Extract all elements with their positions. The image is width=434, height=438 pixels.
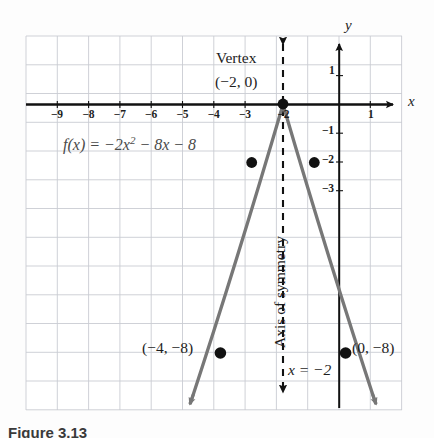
x-tick-label-1: 1 [368, 108, 374, 120]
figure-container: −9 −8 −7 −6 −5 −4 −3 −2 1 1 −1 −2 −3 x y… [0, 0, 434, 438]
x-tick-label--3: −3 [239, 108, 251, 120]
point-label-left: (−4, −8) [142, 340, 193, 356]
axis-of-symmetry-label: Axis of symmetry [272, 236, 288, 348]
vertex-coordinates-label: (−2, 0) [215, 74, 257, 90]
y-tick-label-1: 1 [329, 64, 335, 76]
x-tick-label--6: −6 [145, 108, 157, 120]
y-tick-label--3: −3 [322, 182, 334, 194]
point-left-inner [246, 157, 257, 168]
function-equation-tail: − 8x − 8 [135, 136, 196, 153]
figure-caption: Figure 3.13 [8, 424, 87, 438]
x-tick-label--4: −4 [208, 108, 220, 120]
x-tick-label--7: −7 [114, 108, 126, 120]
x-axis-label: x [408, 94, 415, 110]
point-label-right: (0, −8) [352, 340, 394, 356]
x-tick-label--9: −9 [51, 108, 63, 120]
y-axis-label: y [345, 18, 352, 34]
function-equation-label: f(x) = −2x2 − 8x − 8 [63, 135, 196, 154]
y-tick-label--1: −1 [322, 124, 334, 136]
y-tick-label--2: −2 [322, 153, 334, 165]
x-tick-label--8: −8 [83, 108, 95, 120]
x-tick-label--5: −5 [176, 108, 188, 120]
point-left-outer [215, 347, 227, 359]
function-equation-main: f(x) = −2x [63, 136, 130, 153]
axis-equation-label: x = −2 [288, 362, 331, 378]
x-tick-label--2: −2 [278, 108, 290, 120]
point-right-outer [340, 347, 352, 359]
vertex-label: Vertex [216, 50, 256, 66]
point-right-inner [309, 157, 320, 168]
